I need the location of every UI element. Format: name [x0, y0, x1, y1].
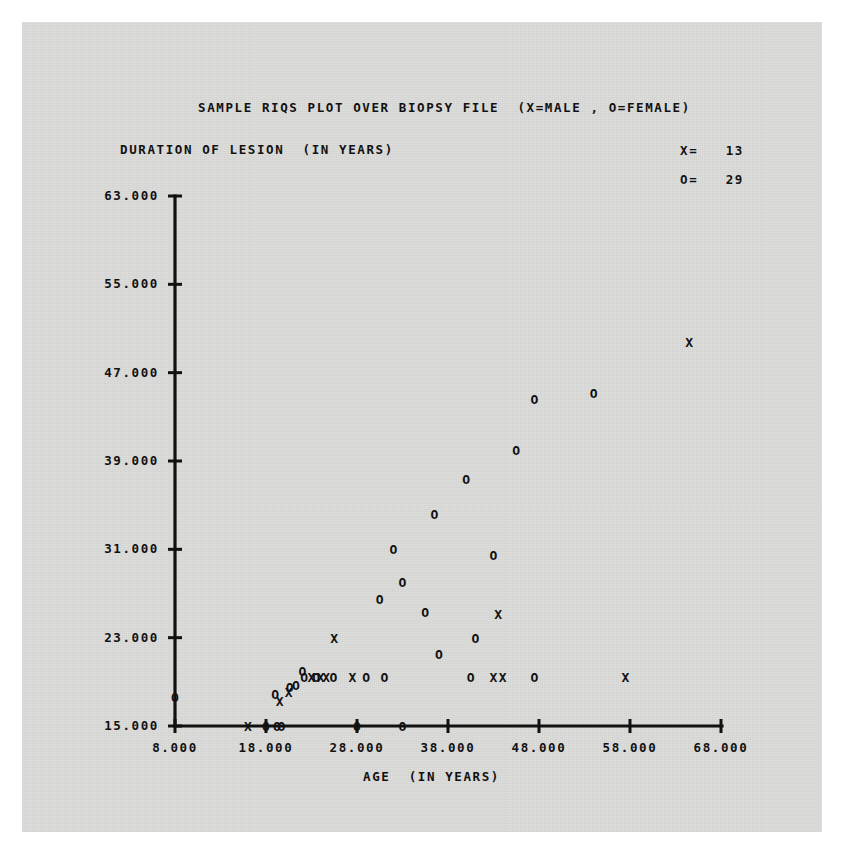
y-tick-label: 55.000 — [63, 276, 159, 291]
data-point-x: X — [685, 335, 693, 348]
data-point-o: O — [329, 671, 337, 684]
data-point-x: X — [490, 671, 498, 684]
y-tick-label: 63.000 — [63, 188, 159, 203]
data-point-o: O — [421, 606, 429, 619]
data-point-o: O — [399, 576, 407, 589]
data-point-x: X — [330, 631, 338, 644]
data-point-o: O — [353, 720, 361, 733]
data-point-x: X — [494, 608, 502, 621]
data-point-o: O — [490, 548, 498, 561]
data-point-x: X — [499, 671, 507, 684]
data-point-o: O — [462, 472, 470, 485]
x-tick-label: 8.000 — [132, 740, 218, 755]
data-point-o: O — [380, 671, 388, 684]
y-tick-label: 39.000 — [63, 453, 159, 468]
data-point-o: O — [262, 720, 270, 733]
data-point-o: O — [278, 720, 286, 733]
y-tick-label: 31.000 — [63, 541, 159, 556]
data-point-o: O — [531, 393, 539, 406]
data-point-o: O — [298, 664, 306, 677]
data-point-o: O — [171, 691, 179, 704]
data-point-o: O — [399, 720, 407, 733]
y-tick-label: 15.000 — [63, 718, 159, 733]
data-point-x: X — [349, 671, 357, 684]
data-point-o: O — [292, 679, 300, 692]
data-point-o: O — [531, 671, 539, 684]
x-tick-label: 58.000 — [587, 740, 673, 755]
y-tick-label: 23.000 — [63, 630, 159, 645]
data-point-x: X — [244, 720, 252, 733]
data-point-o: O — [389, 543, 397, 556]
data-point-o: O — [271, 687, 279, 700]
data-point-o: O — [312, 671, 320, 684]
data-point-o: O — [430, 508, 438, 521]
x-tick-label: 18.000 — [223, 740, 309, 755]
y-tick-label: 47.000 — [63, 365, 159, 380]
data-point-o: O — [435, 648, 443, 661]
data-point-x: X — [622, 671, 630, 684]
data-point-o: O — [467, 671, 475, 684]
data-point-o: O — [376, 593, 384, 606]
data-point-o: O — [512, 443, 520, 456]
scatter-plot: SAMPLE RIQS PLOT OVER BIOPSY FILE (X=MAL… — [0, 0, 844, 853]
x-tick-label: 28.000 — [314, 740, 400, 755]
data-point-o: O — [590, 386, 598, 399]
data-point-o: O — [471, 631, 479, 644]
x-tick-label: 68.000 — [678, 740, 764, 755]
data-point-o: O — [362, 671, 370, 684]
x-tick-label: 38.000 — [405, 740, 491, 755]
x-tick-label: 48.000 — [496, 740, 582, 755]
